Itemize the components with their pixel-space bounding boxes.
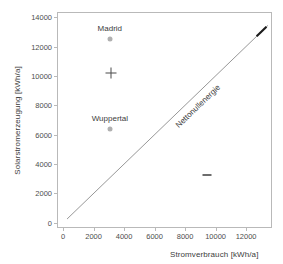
x-tick-mark — [94, 228, 95, 231]
line-end-highlight-icon — [257, 27, 267, 36]
x-tick-label: 2000 — [85, 232, 102, 241]
x-tick-label: 4000 — [116, 232, 133, 241]
y-tick-label: 0 — [18, 218, 52, 227]
y-tick-label: 14000 — [18, 13, 52, 22]
data-point-unlabeled-dash — [203, 174, 212, 176]
y-tick-label: 6000 — [18, 130, 52, 139]
plot-canvas — [58, 13, 271, 227]
x-tick-label: 0 — [61, 232, 65, 241]
y-tick-label: 12000 — [18, 42, 52, 51]
data-point-label-madrid: Madrid — [98, 24, 122, 33]
y-axis-title: Solarstromerzeugung [kWh/a] — [13, 46, 22, 196]
y-tick-label: 10000 — [18, 71, 52, 80]
x-tick-label: 12000 — [236, 232, 257, 241]
x-tick-label: 6000 — [146, 232, 163, 241]
data-point-wuppertal — [107, 127, 112, 132]
data-point-unlabeled-plus — [105, 68, 116, 79]
y-tick-label: 2000 — [18, 189, 52, 198]
x-tick-mark — [155, 228, 156, 231]
chart-figure: Solarstromerzeugung [kWh/a] Stromverbrau… — [0, 0, 283, 264]
y-tick-label: 4000 — [18, 160, 52, 169]
data-point-madrid — [107, 37, 112, 42]
x-tick-label: 8000 — [177, 232, 194, 241]
x-tick-mark — [63, 228, 64, 231]
x-tick-mark — [185, 228, 186, 231]
y-tick-label: 8000 — [18, 101, 52, 110]
data-point-label-wuppertal: Wuppertal — [92, 114, 128, 123]
x-axis-title: Stromverbrauch [kWh/a] — [170, 250, 258, 259]
x-tick-mark — [246, 228, 247, 231]
x-tick-mark — [124, 228, 125, 231]
plot-area: Nettonullenergie MadridWuppertal — [57, 12, 272, 228]
x-tick-mark — [216, 228, 217, 231]
x-tick-label: 10000 — [205, 232, 226, 241]
